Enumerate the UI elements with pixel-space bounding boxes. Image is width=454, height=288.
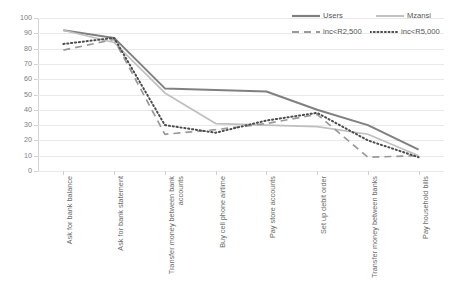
y-tick-label: 10	[2, 152, 32, 159]
x-tick-mark	[165, 171, 166, 175]
y-tick-label: 50	[2, 91, 32, 98]
legend-row-1: Users Mzansi	[286, 12, 452, 25]
x-tick-mark	[368, 171, 369, 175]
solid-line-swatch-icon	[292, 12, 320, 20]
series-line	[63, 30, 418, 155]
dashed-line-swatch-icon	[292, 28, 320, 36]
x-tick-mark	[317, 171, 318, 175]
y-tick-label: 60	[2, 75, 32, 82]
x-tick-label: Pay household bills	[422, 176, 431, 286]
legend-item-users[interactable]: Users	[292, 12, 343, 20]
legend-label-users: Users	[323, 12, 343, 20]
gridline	[38, 171, 444, 172]
line-chart: 1009080706050403020100 Ask for bank bala…	[0, 0, 454, 288]
legend-item-mzansi[interactable]: Mzansi	[376, 12, 431, 20]
legend-item-inc-r5000[interactable]: inc<R5,000	[370, 28, 440, 36]
legend-label-inc-r2500: inc<R2,500	[323, 28, 362, 36]
x-tick-label: Ask for bank balance	[66, 176, 75, 286]
x-tick-mark	[266, 171, 267, 175]
y-tick-label: 0	[2, 167, 32, 174]
x-tick-mark	[63, 171, 64, 175]
x-tick-label: Transfer money between banks	[371, 176, 380, 286]
y-tick-label: 70	[2, 60, 32, 67]
series-line	[63, 30, 418, 149]
x-tick-label: Transfer money between bank accounts	[168, 176, 185, 286]
x-tick-mark	[419, 171, 420, 175]
x-tick-label: Buy cell phone airtime	[219, 176, 228, 286]
y-tick-label: 20	[2, 136, 32, 143]
legend-row-2: inc<R2,500 inc<R5,000	[286, 28, 452, 41]
x-tick-mark	[114, 171, 115, 175]
y-tick-label: 80	[2, 45, 32, 52]
legend-item-inc-r2500[interactable]: inc<R2,500	[292, 28, 362, 36]
solid-line-swatch-icon	[376, 12, 404, 20]
legend-label-mzansi: Mzansi	[407, 12, 431, 20]
legend-label-inc-r5000: inc<R5,000	[401, 28, 440, 36]
y-tick-label: 30	[2, 121, 32, 128]
x-tick-label: Set up debit order	[320, 176, 329, 286]
y-tick-label: 100	[2, 14, 32, 21]
x-tick-label: Pay store accounts	[269, 176, 278, 286]
legend: Users Mzansi inc<R2,500 inc<R5,000	[286, 12, 452, 44]
x-axis-tick-labels: Ask for bank balanceAsk for bank stateme…	[38, 176, 444, 286]
x-tick-label: Ask for bank statement	[117, 176, 126, 286]
y-tick-mark	[34, 171, 38, 172]
series-line	[63, 38, 418, 157]
y-tick-label: 90	[2, 29, 32, 36]
y-tick-label: 40	[2, 106, 32, 113]
dotted-line-swatch-icon	[370, 28, 398, 36]
x-tick-mark	[216, 171, 217, 175]
